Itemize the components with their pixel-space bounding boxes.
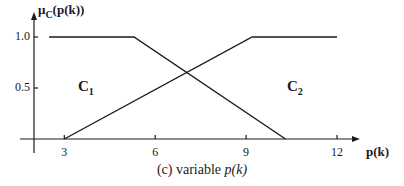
series-label-c2: C2	[287, 78, 303, 97]
figure-caption: (c) variable p(k)	[0, 162, 404, 178]
series-label-c1: C1	[78, 78, 94, 97]
y-axis-arrow-icon	[31, 12, 37, 20]
x-tick-label: 12	[331, 145, 343, 160]
x-axis-title: p(k)	[366, 144, 389, 160]
y-tick-label: 0.5	[0, 80, 30, 95]
x-tick-label: 3	[61, 145, 67, 160]
x-tick-label: 6	[152, 145, 158, 160]
x-axis-arrow-icon	[352, 136, 360, 142]
x-tick-label: 9	[243, 145, 249, 160]
axes	[20, 12, 360, 153]
y-axis-title: μC(p(k))	[38, 2, 84, 20]
y-tick-label: 1.0	[0, 29, 30, 44]
